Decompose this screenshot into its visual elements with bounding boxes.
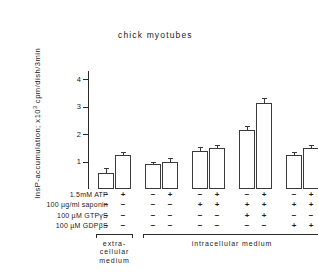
- sign-r1-c3: −: [148, 191, 158, 199]
- sign-r4-c3: −: [148, 222, 158, 230]
- bar-5: [192, 151, 208, 189]
- sign-r4-c4: −: [165, 222, 175, 230]
- sign-r1-c5: −: [195, 191, 205, 199]
- sign-r4-c2: −: [118, 222, 128, 230]
- error-cap-8: [262, 98, 267, 99]
- sign-r3-c3: −: [148, 212, 158, 220]
- sign-r3-c8: +: [259, 212, 269, 220]
- sign-r2-c9: +: [289, 201, 299, 209]
- error-cap-4: [168, 158, 173, 159]
- condition-sign-grid: −+−+−+−+−+−−−−++++++−−−−−−++−−−−−−−−−−++: [88, 190, 314, 232]
- bar-2: [115, 155, 131, 189]
- sign-r3-c9: −: [289, 212, 299, 220]
- sign-r2-c10: +: [306, 201, 316, 209]
- sign-r3-c5: −: [195, 212, 205, 220]
- plot-area: [88, 71, 314, 189]
- sign-r4-c1: −: [101, 222, 111, 230]
- y-tick-label-2: 2: [69, 131, 81, 138]
- sign-r2-c2: −: [118, 201, 128, 209]
- error-cap-1: [104, 168, 109, 169]
- error-bar-1: [106, 169, 107, 172]
- error-cap-3: [151, 162, 156, 163]
- sign-r4-c9: +: [289, 222, 299, 230]
- group-label-2: intracellular medium: [129, 240, 318, 248]
- sign-r2-c3: −: [148, 201, 158, 209]
- sign-r1-c10: +: [306, 191, 316, 199]
- error-cap-7: [245, 126, 250, 127]
- bar-6: [209, 148, 225, 189]
- sign-r3-c2: −: [118, 212, 128, 220]
- error-bar-3: [153, 163, 154, 165]
- sign-r3-c1: −: [101, 212, 111, 220]
- sign-r1-c6: +: [212, 191, 222, 199]
- sign-r2-c5: +: [195, 201, 205, 209]
- error-bar-7: [247, 127, 248, 130]
- sign-r3-c10: −: [306, 212, 316, 220]
- error-cap-2: [121, 152, 126, 153]
- sign-r4-c5: −: [195, 222, 205, 230]
- y-axis-label: InsP-accumulation; x103 cpm/dish/3min: [32, 43, 43, 203]
- sign-r2-c7: +: [242, 201, 252, 209]
- bar-10: [303, 148, 318, 189]
- y-tick-label-4: 4: [69, 76, 81, 83]
- sign-r3-c6: −: [212, 212, 222, 220]
- y-tick-label-3: 3: [69, 103, 81, 110]
- sign-r3-c7: +: [242, 212, 252, 220]
- bar-7: [239, 130, 255, 189]
- bracket-1: [96, 234, 133, 238]
- chart-title: chick myotubes: [118, 30, 193, 40]
- sign-r1-c2: +: [118, 191, 128, 199]
- error-bar-9: [294, 153, 295, 155]
- y-axis-label-tail: cpm/dish/3min: [33, 48, 42, 106]
- error-cap-5: [198, 147, 203, 148]
- sign-r1-c9: −: [289, 191, 299, 199]
- error-cap-6: [215, 145, 220, 146]
- error-bar-4: [170, 159, 171, 161]
- error-cap-9: [292, 152, 297, 153]
- bar-9: [286, 155, 302, 189]
- error-bar-2: [123, 153, 124, 155]
- sign-r2-c6: +: [212, 201, 222, 209]
- sign-r1-c1: −: [101, 191, 111, 199]
- sign-r1-c4: +: [165, 191, 175, 199]
- sign-r1-c7: −: [242, 191, 252, 199]
- sign-r4-c7: −: [242, 222, 252, 230]
- sign-r1-c8: +: [259, 191, 269, 199]
- bar-3: [145, 164, 161, 189]
- bar-4: [162, 162, 178, 189]
- sign-r2-c8: +: [259, 201, 269, 209]
- y-tick-label-1: 1: [69, 158, 81, 165]
- figure-canvas: chick myotubes InsP-accumulation; x103 c…: [0, 0, 318, 273]
- sign-r4-c10: +: [306, 222, 316, 230]
- error-bar-5: [200, 148, 201, 150]
- error-bar-10: [311, 146, 312, 148]
- bracket-2: [143, 234, 318, 238]
- error-bar-6: [217, 146, 218, 148]
- sign-r3-c4: −: [165, 212, 175, 220]
- sign-r2-c1: −: [101, 201, 111, 209]
- error-bar-8: [264, 99, 265, 102]
- sign-r4-c6: −: [212, 222, 222, 230]
- y-axis-label-main: InsP-accumulation; x10: [33, 109, 42, 199]
- sign-r2-c4: −: [165, 201, 175, 209]
- bar-8: [256, 103, 272, 189]
- sign-r4-c8: −: [259, 222, 269, 230]
- error-cap-10: [309, 145, 314, 146]
- bar-1: [98, 173, 114, 189]
